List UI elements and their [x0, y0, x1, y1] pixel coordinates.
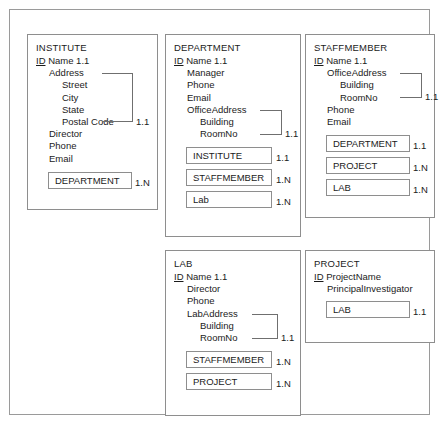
primary-key-label: ID: [174, 55, 184, 66]
attribute-suffix: ProjectName: [326, 271, 381, 282]
attribute-row: Building: [174, 116, 292, 128]
primary-key-label: ID: [314, 55, 324, 66]
reference-cardinality: 1.N: [135, 178, 150, 188]
composite-cardinality: 1.1: [136, 117, 149, 127]
primary-key-label: ID: [174, 271, 184, 282]
reference-row: DEPARTMENT 1.1: [314, 135, 426, 152]
attribute-row: ID Name 1.1: [36, 55, 149, 67]
attribute-list: ID ProjectName PrincipalInvestigator: [314, 271, 426, 295]
composite-cardinality: 1.1: [425, 92, 438, 102]
reference-box[interactable]: INSTITUTE: [186, 147, 272, 164]
reference-cardinality: 1.N: [413, 185, 428, 195]
reference-cardinality: 1.N: [276, 175, 291, 185]
reference-box[interactable]: LAB: [326, 301, 410, 318]
attribute-row: Manager: [174, 67, 292, 79]
reference-row: LAB 1.N: [314, 179, 426, 196]
attribute-suffix: Name 1.1: [48, 55, 89, 66]
reference-row: Lab 1.N: [174, 191, 292, 208]
diagram-frame: INSTITUTE ID Name 1.1 Address Street Cit…: [9, 9, 430, 415]
reference-cardinality: 1.N: [276, 357, 291, 367]
attribute-row: City: [36, 92, 149, 104]
attribute-row: PrincipalInvestigator: [314, 283, 426, 295]
reference-box[interactable]: PROJECT: [186, 373, 272, 390]
reference-cardinality: 1.1: [413, 307, 426, 317]
reference-cardinality: 1.N: [276, 197, 291, 207]
reference-row: DEPARTMENT 1.N: [36, 172, 149, 189]
reference-row: STAFFMEMBER 1.N: [174, 169, 292, 186]
attribute-row: Building: [314, 79, 426, 91]
attribute-row: ID Name 1.1: [174, 271, 292, 283]
entity-institute[interactable]: INSTITUTE ID Name 1.1 Address Street Cit…: [27, 34, 158, 210]
reference-row: PROJECT 1.N: [174, 373, 292, 390]
attribute-suffix: Name 1.1: [186, 55, 227, 66]
entity-title: PROJECT: [314, 258, 426, 270]
attribute-row: Email: [314, 116, 426, 128]
attribute-row: Phone: [36, 140, 149, 152]
entity-lab[interactable]: LAB ID Name 1.1 Director Phone LabAddres…: [165, 250, 301, 416]
attribute-row: RoomNo: [174, 332, 292, 344]
reference-cardinality: 1.1: [413, 141, 426, 151]
reference-box[interactable]: Lab: [186, 191, 272, 208]
attribute-list: ID Name 1.1 OfficeAddress Building RoomN…: [314, 55, 426, 128]
attribute-row: Phone: [174, 79, 292, 91]
attribute-list: ID Name 1.1 Director Phone LabAddress Bu…: [174, 271, 292, 344]
reference-box[interactable]: STAFFMEMBER: [186, 169, 272, 186]
reference-box[interactable]: DEPARTMENT: [48, 172, 132, 189]
reference-row: PROJECT 1.N: [314, 157, 426, 174]
reference-row: STAFFMEMBER 1.N: [174, 351, 292, 368]
attribute-row: Phone: [174, 295, 292, 307]
attribute-row: ID Name 1.1: [314, 55, 426, 67]
primary-key-label: ID: [314, 271, 324, 282]
attribute-list: ID Name 1.1 Manager Phone Email OfficeAd…: [174, 55, 292, 140]
attribute-row: Street: [36, 79, 149, 91]
entity-title: INSTITUTE: [36, 42, 149, 54]
attribute-row: ID Name 1.1: [174, 55, 292, 67]
attribute-row: Phone: [314, 104, 426, 116]
attribute-row: State: [36, 104, 149, 116]
attribute-row: Director: [36, 128, 149, 140]
reference-cardinality: 1.N: [413, 163, 428, 173]
attribute-row: Building: [174, 320, 292, 332]
attribute-row: ID ProjectName: [314, 271, 426, 283]
reference-box[interactable]: DEPARTMENT: [326, 135, 410, 152]
composite-cardinality: 1.1: [281, 333, 294, 343]
entity-title: DEPARTMENT: [174, 42, 292, 54]
attribute-row: OfficeAddress: [174, 104, 292, 116]
entity-department[interactable]: DEPARTMENT ID Name 1.1 Manager Phone Ema…: [165, 34, 301, 237]
attribute-row: Postal Code: [36, 116, 149, 128]
reference-cardinality: 1.N: [276, 379, 291, 389]
entity-project[interactable]: PROJECT ID ProjectName PrincipalInvestig…: [305, 250, 435, 343]
attribute-suffix: Name 1.1: [326, 55, 367, 66]
entity-title: LAB: [174, 258, 292, 270]
entity-title: STAFFMEMBER: [314, 42, 426, 54]
attribute-row: Director: [174, 283, 292, 295]
entity-staffmember[interactable]: STAFFMEMBER ID Name 1.1 OfficeAddress Bu…: [305, 34, 435, 218]
reference-box[interactable]: STAFFMEMBER: [186, 351, 272, 368]
reference-box[interactable]: LAB: [326, 179, 410, 196]
attribute-row: RoomNo: [174, 128, 292, 140]
attribute-suffix: Name 1.1: [186, 271, 227, 282]
attribute-row: LabAddress: [174, 308, 292, 320]
attribute-list: ID Name 1.1 Address Street City State Po…: [36, 55, 149, 165]
reference-cardinality: 1.1: [276, 153, 289, 163]
attribute-row: Address: [36, 67, 149, 79]
reference-row: INSTITUTE 1.1: [174, 147, 292, 164]
reference-row: LAB 1.1: [314, 301, 426, 318]
attribute-row: Email: [174, 92, 292, 104]
primary-key-label: ID: [36, 55, 46, 66]
reference-box[interactable]: PROJECT: [326, 157, 410, 174]
attribute-row: Email: [36, 153, 149, 165]
attribute-row: OfficeAddress: [314, 67, 426, 79]
attribute-row: RoomNo: [314, 92, 426, 104]
composite-cardinality: 1.1: [285, 129, 298, 139]
